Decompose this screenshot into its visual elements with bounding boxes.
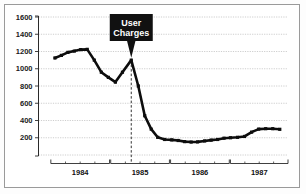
callout-line-2: Charges — [113, 28, 149, 38]
y-axis-label: 1200 — [16, 47, 33, 56]
x-year-label: 1985 — [132, 168, 149, 177]
data-point-marker — [143, 114, 146, 117]
chart-figure: 2004006008001000120014001600198419851986… — [0, 0, 306, 194]
data-point-marker — [190, 140, 193, 143]
data-point-marker — [73, 49, 76, 52]
data-point-marker — [107, 76, 110, 79]
callout-line-1: User — [121, 18, 142, 28]
data-point-marker — [66, 51, 69, 54]
data-point-marker — [114, 81, 117, 84]
data-point-marker — [163, 138, 166, 141]
data-point-marker — [183, 140, 186, 143]
data-point-marker — [264, 127, 267, 130]
data-point-marker — [121, 71, 124, 74]
y-axis-label: 600 — [20, 99, 33, 108]
data-point-marker — [250, 131, 253, 134]
data-point-marker — [150, 128, 153, 131]
y-axis-label: 1600 — [16, 13, 33, 22]
data-point-marker — [209, 139, 212, 142]
data-point-marker — [170, 138, 173, 141]
data-point-marker — [130, 59, 133, 62]
data-point-marker — [203, 139, 206, 142]
y-axis-label: 400 — [20, 116, 33, 125]
data-point-marker — [137, 84, 140, 87]
data-point-marker — [236, 136, 239, 139]
data-point-marker — [60, 54, 63, 57]
data-point-marker — [243, 135, 246, 138]
data-point-marker — [271, 127, 274, 130]
y-axis-label: 800 — [20, 82, 33, 91]
y-axis-label: 1400 — [16, 30, 33, 39]
line-chart: 2004006008001000120014001600198419851986… — [0, 0, 306, 194]
y-axis-label: 200 — [20, 133, 33, 142]
data-point-marker — [222, 137, 225, 140]
data-point-marker — [257, 128, 260, 131]
data-point-marker — [196, 140, 199, 143]
x-year-label: 1984 — [72, 168, 90, 177]
x-year-label: 1987 — [251, 168, 268, 177]
data-point-marker — [278, 128, 281, 131]
data-point-marker — [93, 59, 96, 62]
data-point-marker — [100, 71, 103, 74]
data-point-marker — [79, 48, 82, 51]
data-point-marker — [229, 136, 232, 139]
data-point-marker — [156, 136, 159, 139]
data-point-marker — [216, 138, 219, 141]
data-line — [55, 49, 280, 142]
y-axis-label: 1000 — [16, 64, 33, 73]
data-point-marker — [86, 48, 89, 51]
data-point-marker — [177, 139, 180, 142]
x-year-label: 1986 — [192, 168, 209, 177]
data-point-marker — [53, 56, 56, 59]
